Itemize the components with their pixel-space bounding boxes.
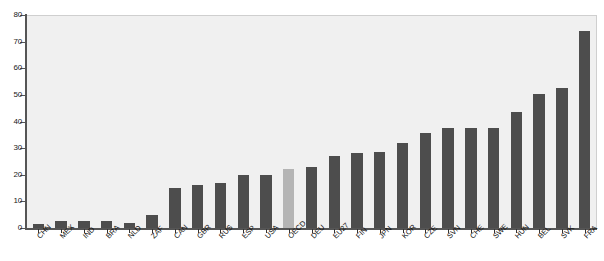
bar-slot bbox=[55, 15, 66, 228]
bar-slot bbox=[488, 15, 499, 228]
bar-kor bbox=[397, 143, 408, 228]
bar-slot bbox=[533, 15, 544, 228]
bar-slot bbox=[124, 15, 135, 228]
y-axis-label: 20 bbox=[0, 171, 22, 179]
bar-slot bbox=[442, 15, 453, 228]
y-axis-label: 70 bbox=[0, 38, 22, 46]
bar-esp bbox=[238, 175, 249, 228]
bar-chart: 01020304050607080 CHNMEXINDBRANLDZAFCANG… bbox=[0, 0, 604, 261]
bar-can bbox=[169, 188, 180, 228]
bar-deu bbox=[306, 167, 317, 228]
bar-fra bbox=[579, 31, 590, 228]
bar-cze bbox=[420, 133, 431, 228]
bar-slot bbox=[169, 15, 180, 228]
bars-layer bbox=[27, 15, 596, 228]
bar-slot bbox=[374, 15, 385, 228]
bar-chn bbox=[33, 224, 44, 228]
bar-slot bbox=[579, 15, 590, 228]
bar-slot bbox=[283, 15, 294, 228]
bar-bra bbox=[101, 221, 112, 228]
bar-nld bbox=[124, 223, 135, 228]
bar-svk bbox=[556, 88, 567, 228]
bar-slot bbox=[556, 15, 567, 228]
bar-slot bbox=[306, 15, 317, 228]
bar-slot bbox=[397, 15, 408, 228]
bar-slot bbox=[329, 15, 340, 228]
bar-usa bbox=[260, 175, 271, 228]
y-axis-label: 10 bbox=[0, 197, 22, 205]
bar-oecd bbox=[283, 169, 294, 228]
bar-mex bbox=[55, 221, 66, 228]
bar-swe bbox=[488, 128, 499, 228]
bar-slot bbox=[238, 15, 249, 228]
bar-slot bbox=[351, 15, 362, 228]
bar-fin bbox=[351, 153, 362, 228]
bar-slot bbox=[78, 15, 89, 228]
bar-slot bbox=[511, 15, 522, 228]
bar-jpn bbox=[374, 152, 385, 228]
bar-slot bbox=[192, 15, 203, 228]
bar-eu27 bbox=[329, 156, 340, 228]
bar-hun bbox=[511, 112, 522, 228]
bar-che bbox=[465, 128, 476, 228]
y-axis-label: 0 bbox=[0, 224, 22, 232]
bar-slot bbox=[260, 15, 271, 228]
y-axis-label: 80 bbox=[0, 11, 22, 19]
bar-gbr bbox=[192, 185, 203, 228]
bar-zaf bbox=[146, 215, 157, 228]
bar-ind bbox=[78, 221, 89, 228]
bar-slot bbox=[146, 15, 157, 228]
bar-bel bbox=[533, 94, 544, 228]
y-axis-label: 40 bbox=[0, 118, 22, 126]
bar-slot bbox=[420, 15, 431, 228]
bar-slot bbox=[215, 15, 226, 228]
y-axis-label: 60 bbox=[0, 64, 22, 72]
y-axis-label: 50 bbox=[0, 91, 22, 99]
bar-rus bbox=[215, 183, 226, 228]
bar-slot bbox=[101, 15, 112, 228]
bar-slot bbox=[33, 15, 44, 228]
bar-svn bbox=[442, 128, 453, 228]
bar-slot bbox=[465, 15, 476, 228]
y-axis-label: 30 bbox=[0, 144, 22, 152]
